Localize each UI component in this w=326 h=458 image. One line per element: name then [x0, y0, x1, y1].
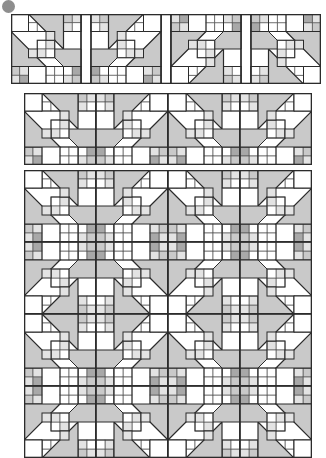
quilt-block	[24, 93, 96, 165]
quilt-block	[24, 386, 96, 458]
quilt-block	[24, 314, 96, 386]
quilt-block	[96, 314, 168, 386]
panel-middle-band	[24, 93, 312, 165]
quilt-block	[96, 170, 168, 242]
quilt-block	[251, 14, 321, 84]
quilt-block	[168, 242, 240, 314]
quilt-block	[96, 242, 168, 314]
quilt-block	[168, 93, 240, 165]
quilt-block	[24, 170, 96, 242]
quilt-block	[168, 314, 240, 386]
quilt-block	[240, 386, 312, 458]
corner-dot-marker	[2, 0, 15, 13]
quilt-block	[168, 386, 240, 458]
quilt-block	[24, 242, 96, 314]
quilt-block	[96, 386, 168, 458]
quilt-block	[171, 14, 241, 84]
quilt-block	[240, 93, 312, 165]
quilt-block	[91, 14, 161, 84]
quilt-block	[96, 93, 168, 165]
quilt-block	[240, 242, 312, 314]
panel-bottom-grid	[24, 170, 312, 458]
quilt-block	[168, 170, 240, 242]
quilt-block	[11, 14, 81, 84]
quilt-block	[240, 170, 312, 242]
quilt-block	[240, 314, 312, 386]
panel-top-row	[11, 14, 321, 84]
